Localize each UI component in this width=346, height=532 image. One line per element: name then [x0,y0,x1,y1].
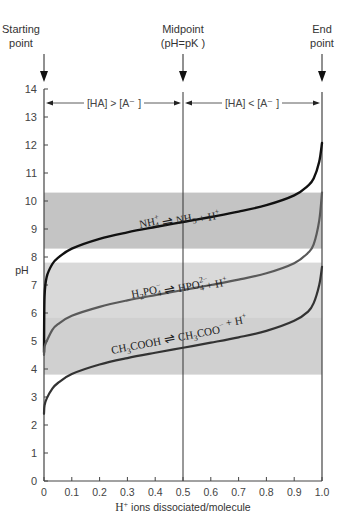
x-tick-label: 1.0 [315,486,330,498]
x-tick-label: 0.4 [148,486,163,498]
starting-point-label-line2: point [9,37,33,49]
down-arrow-icon [40,71,48,82]
end-point-annotation: End point [310,23,334,82]
y-tick-label: 0 [31,475,37,487]
region-left-label: [HA] > [A⁻ ] [87,97,141,109]
right-arrow-icon [313,101,320,106]
y-tick-label: 7 [31,279,37,291]
y-tick-label: 12 [25,139,37,151]
x-tick-label: 0.2 [92,486,107,498]
midpoint-label-line2: (pH=pK ) [161,37,205,49]
y-axis-label: pH [15,264,28,276]
y-tick-label: 14 [25,83,37,95]
x-tick-label: 0.6 [203,486,218,498]
y-tick-label: 13 [25,111,37,123]
x-tick-label: 0.7 [231,486,246,498]
y-tick-label: 8 [31,251,37,263]
y-tick-label: 4 [31,363,37,375]
y-tick-label: 9 [31,223,37,235]
x-axis-label: H+ ions dissociated/molecule [115,500,251,513]
y-tick-label: 2 [31,419,37,431]
end-point-label-line2: point [310,37,334,49]
titration-chart: 0123456789101112131400.10.20.30.40.50.60… [0,0,346,532]
midpoint-annotation: Midpoint (pH=pK ) [161,23,205,82]
x-tick-label: 0.8 [259,486,274,498]
x-tick-label: 0.5 [176,486,191,498]
left-arrow-icon [185,101,192,106]
midpoint-label-line1: Midpoint [162,23,204,35]
left-arrow-icon [46,101,53,106]
starting-point-annotation: Starting point [2,23,48,82]
y-tick-label: 11 [26,167,37,179]
y-tick-label: 10 [25,195,37,207]
y-tick-label: 1 [31,447,37,459]
down-arrow-icon [179,71,187,82]
y-tick-label: 3 [31,391,37,403]
y-tick-label: 6 [31,307,37,319]
end-point-label-line1: End [312,23,332,35]
right-arrow-icon [174,101,181,106]
y-tick-label: 5 [31,335,37,347]
x-tick-label: 0.1 [64,486,79,498]
x-tick-label: 0.3 [120,486,135,498]
region-right-label: [HA] < [A⁻ ] [225,97,279,109]
region-right-annotation: [HA] < [A⁻ ] [185,97,320,109]
down-arrow-icon [318,71,326,82]
x-tick-label: 0.9 [287,486,302,498]
x-tick-label: 0 [41,486,47,498]
starting-point-label-line1: Starting [2,23,40,35]
region-left-annotation: [HA] > [A⁻ ] [46,97,181,109]
